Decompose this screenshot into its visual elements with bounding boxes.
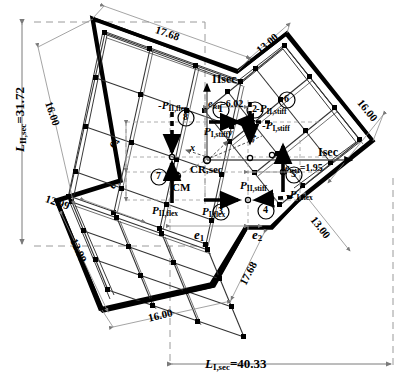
force-2-sub: I,stiff: [272, 124, 289, 133]
force-number-2: 2: [252, 104, 257, 114]
force-number-8: 8: [183, 112, 188, 122]
force-1-sub: I,stiff: [211, 130, 228, 139]
force-7-symbol: P: [152, 204, 159, 216]
force-5-sub: II,stiff: [247, 184, 267, 193]
force-number-3: 3: [218, 206, 223, 216]
force-label-5: PII,stiff: [240, 180, 267, 192]
grid-wing-c-double: [75, 206, 211, 325]
force-label-2: -PI,stiff: [262, 120, 290, 132]
figure-canvas: LII,sec=31.72 LI,sec=40.33 17.68 13.00 1…: [0, 0, 414, 392]
overall-dim-bottom-value: =40.33: [230, 356, 267, 371]
overall-dim-left-symbol: L: [12, 144, 27, 152]
label-cr-sec: CR,sec: [190, 164, 223, 175]
force-number-1: 1: [218, 104, 223, 114]
force-number-6: 6: [284, 94, 289, 104]
label-e2: e2: [252, 228, 262, 243]
force-4-sub: I,flex: [296, 193, 312, 202]
overall-dim-left-value: =31.72: [12, 87, 27, 124]
force-5-symbol: P: [240, 179, 247, 191]
axis-label-local-x: x: [190, 143, 195, 153]
force-label-1: PI,stiff: [204, 126, 228, 138]
e1-sub: 1: [200, 233, 204, 243]
force-number-7: 7: [156, 171, 161, 181]
force-number-4: 4: [263, 205, 268, 215]
axis-label-iisec: IIsec: [212, 73, 237, 85]
e2-sub: 2: [258, 233, 262, 243]
label-e1: e1: [194, 228, 204, 243]
force-number-5: 5: [291, 169, 296, 179]
force-label-4: -PI,flex: [286, 189, 313, 201]
e-ri-value: =6.02: [220, 98, 243, 109]
overall-dim-bottom-sub: I,sec: [213, 362, 230, 372]
force-1-symbol: P: [204, 125, 211, 137]
force-7-sub: II,flex: [159, 209, 178, 218]
force-3-symbol: P: [202, 205, 209, 217]
label-cm: CM: [172, 182, 190, 193]
overall-dim-bottom-symbol: L: [205, 356, 213, 371]
e-rii-value: =1.95: [300, 162, 323, 173]
overall-dim-left: LII,sec=31.72: [13, 87, 28, 152]
axis-label-isec: Isec: [318, 146, 338, 158]
overall-dim-bottom: LI,sec=40.33: [205, 357, 267, 372]
diagram-svg: [0, 0, 414, 392]
force-6-sub: II,stiff: [266, 107, 286, 116]
axis-label-local-y: y: [228, 128, 232, 138]
overall-dim-left-sub: II,sec: [18, 124, 28, 144]
force-label-7: PII,flex: [152, 205, 178, 217]
force-label-6: -PII,stiff: [256, 103, 287, 115]
label-e-ri: eRI=6.02: [208, 99, 243, 110]
